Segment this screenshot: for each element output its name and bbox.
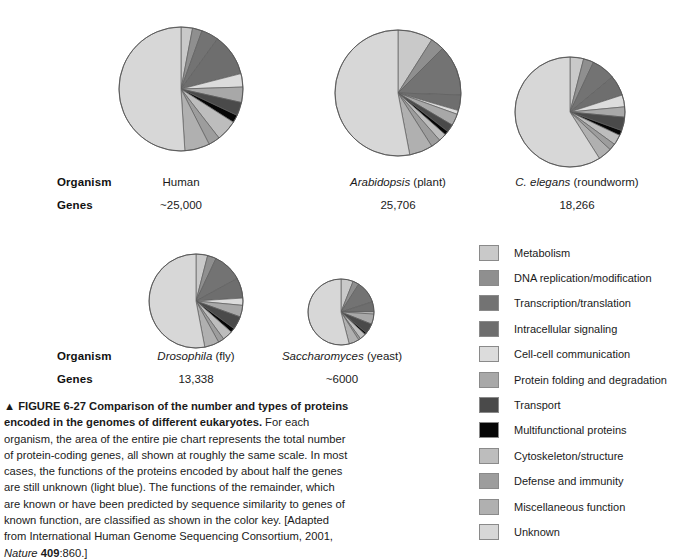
legend-swatch-icon: [479, 448, 499, 464]
gene-count-human: ~25,000: [131, 199, 231, 211]
legend-swatch-icon: [479, 524, 499, 540]
organism-genus-saccharomyces: Saccharomyces: [282, 350, 364, 362]
pie-chart-celegans: [513, 55, 627, 169]
pie-chart-saccharomyces: [306, 277, 376, 347]
organism-genus-celegans: C. elegans: [515, 176, 570, 188]
legend-item: DNA replication/modification: [479, 265, 689, 290]
legend-item-label: Miscellaneous function: [514, 501, 625, 513]
caption-source-page: :860.]: [59, 547, 87, 559]
gene-count-drosophila: 13,338: [136, 373, 256, 385]
pie-chart-drosophila: [147, 252, 245, 350]
organism-common-celegans: (roundworm): [570, 176, 638, 188]
legend-item-label: Metabolism: [514, 247, 570, 259]
legend-item-label: Defense and immunity: [514, 475, 623, 487]
legend-swatch-icon: [479, 499, 499, 515]
legend-item: Miscellaneous function: [479, 494, 689, 519]
legend-item-label: Transcription/translation: [514, 297, 631, 309]
gene-count-celegans: 18,266: [497, 199, 657, 211]
row-label-organism-top: Organism: [57, 176, 111, 188]
pie-chart-arabidopsis: [333, 28, 463, 158]
figure-caption: ▲ FIGURE 6-27 Comparison of the number a…: [4, 398, 349, 560]
legend-swatch-icon: [479, 346, 499, 362]
legend-item: Transport: [479, 392, 689, 417]
organism-genus-drosophila: Drosophila: [157, 350, 212, 362]
legend-item: Transcription/translation: [479, 291, 689, 316]
legend-swatch-icon: [479, 397, 499, 413]
legend-item: Protein folding and degradation: [479, 367, 689, 392]
organism-genus-arabidopsis: Arabidopsis: [350, 176, 410, 188]
pie-slice: [119, 27, 185, 151]
row-label-organism-bottom: Organism: [57, 350, 111, 362]
organism-common-arabidopsis: (plant): [410, 176, 446, 188]
gene-count-saccharomyces: ~6000: [272, 373, 412, 385]
organism-name-drosophila: Drosophila (fly): [136, 350, 256, 362]
caption-body: For each organism, the area of the entir…: [4, 416, 347, 542]
legend-item: Metabolism: [479, 240, 689, 265]
color-key-legend: MetabolismDNA replication/modificationTr…: [479, 240, 689, 545]
legend-item-label: Protein folding and degradation: [514, 374, 667, 386]
organism-name-celegans: C. elegans (roundworm): [497, 176, 657, 188]
legend-swatch-icon: [479, 422, 499, 438]
organism-name-human: Human: [131, 176, 231, 188]
caption-triangle-icon: ▲: [4, 400, 15, 412]
legend-swatch-icon: [479, 473, 499, 489]
row-label-genes-bottom: Genes: [57, 373, 93, 385]
legend-item-label: Transport: [514, 399, 561, 411]
caption-source-volume: 409: [41, 547, 60, 559]
legend-swatch-icon: [479, 321, 499, 337]
row-label-genes-top: Genes: [57, 199, 93, 211]
legend-swatch-icon: [479, 372, 499, 388]
legend-item-label: Multifunctional proteins: [514, 424, 627, 436]
gene-count-arabidopsis: 25,706: [330, 199, 466, 211]
organism-common-saccharomyces: (yeast): [364, 350, 402, 362]
legend-swatch-icon: [479, 270, 499, 286]
legend-item: Unknown: [479, 519, 689, 544]
legend-swatch-icon: [479, 295, 499, 311]
organism-common-drosophila: (fly): [212, 350, 234, 362]
legend-item-label: DNA replication/modification: [514, 272, 652, 284]
figure-page: Organism Genes Human ~25,000 Arabidopsis…: [0, 0, 689, 560]
legend-item: Multifunctional proteins: [479, 418, 689, 443]
pie-chart-human: [117, 25, 245, 153]
legend-item-label: Cell-cell communication: [514, 348, 630, 360]
legend-item-label: Unknown: [514, 526, 560, 538]
legend-item: Defense and immunity: [479, 469, 689, 494]
caption-figure-number: FIGURE 6-27: [18, 400, 86, 412]
legend-swatch-icon: [479, 245, 499, 261]
legend-item: Intracellular signaling: [479, 316, 689, 341]
organism-name-saccharomyces: Saccharomyces (yeast): [272, 350, 412, 362]
legend-item: Cytoskeleton/structure: [479, 443, 689, 468]
legend-item-label: Cytoskeleton/structure: [514, 450, 623, 462]
organism-name-arabidopsis: Arabidopsis (plant): [330, 176, 466, 188]
legend-item: Cell-cell communication: [479, 342, 689, 367]
legend-item-label: Intracellular signaling: [514, 323, 617, 335]
caption-source-journal: Nature: [4, 547, 38, 559]
